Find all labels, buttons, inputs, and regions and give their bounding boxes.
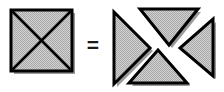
figure-canvas [0, 0, 224, 92]
left-square-group [11, 10, 75, 74]
equals-sign: = [80, 30, 106, 60]
figure-root: = [0, 0, 224, 92]
